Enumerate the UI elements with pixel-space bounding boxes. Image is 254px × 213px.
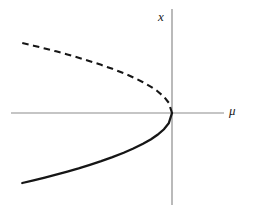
x-axis-label: μ xyxy=(229,104,236,117)
bifurcation-diagram-figure: x μ xyxy=(0,0,254,213)
stable-branch-curve xyxy=(22,113,172,183)
y-axis-label: x xyxy=(158,10,164,23)
unstable-branch-curve xyxy=(22,43,172,113)
plot-canvas xyxy=(0,0,254,213)
